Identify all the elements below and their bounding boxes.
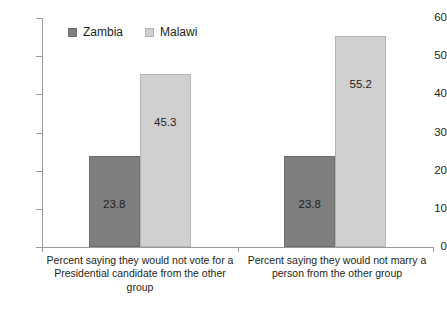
bar-value-label: 23.8 (285, 199, 334, 211)
legend-item-zambia[interactable]: Zambia (68, 26, 123, 38)
bar-chart: 0102030405060 23.845.323.855.2 Zambia Ma… (0, 0, 447, 309)
plot-area: 23.845.323.855.2 (42, 18, 433, 247)
category-label-1: Percent saying they would not marry a pe… (240, 254, 434, 281)
x-axis-tick (433, 247, 434, 252)
legend-swatch-zambia-icon (68, 28, 77, 37)
bar-value-label: 45.3 (141, 117, 190, 129)
bar-malawi-group-0[interactable]: 45.3 (140, 74, 191, 247)
x-axis-tick (238, 247, 239, 252)
bar-value-label: 23.8 (90, 199, 139, 211)
legend-item-malawi[interactable]: Malawi (145, 26, 197, 38)
bar-zambia-group-1[interactable]: 23.8 (284, 156, 335, 247)
category-label-0: Percent saying they would not vote for a… (46, 254, 234, 294)
x-axis-tick (42, 247, 43, 252)
bar-malawi-group-1[interactable]: 55.2 (335, 36, 386, 247)
legend-label-zambia: Zambia (83, 26, 123, 38)
bar-value-label: 55.2 (336, 79, 385, 91)
bar-zambia-group-0[interactable]: 23.8 (89, 156, 140, 247)
legend-swatch-malawi-icon (145, 28, 154, 37)
chart-legend: Zambia Malawi (68, 26, 197, 38)
legend-label-malawi: Malawi (160, 26, 197, 38)
